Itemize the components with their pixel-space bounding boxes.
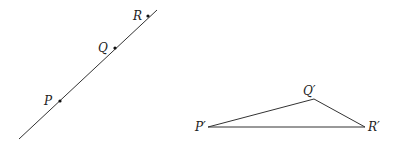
triangle-pqr-prime: [208, 99, 365, 127]
point-r: [146, 14, 149, 17]
line-pqr: [19, 10, 157, 139]
label-r: R: [132, 9, 142, 23]
point-q: [113, 46, 116, 49]
label-q-prime: Q′: [303, 84, 316, 98]
label-r-prime: R′: [367, 120, 380, 134]
label-q: Q: [98, 41, 108, 55]
label-p: P: [43, 94, 53, 108]
label-p-prime: P′: [194, 120, 206, 134]
point-p: [58, 99, 61, 102]
diagram: P Q R P′ Q′ R′: [0, 0, 395, 142]
